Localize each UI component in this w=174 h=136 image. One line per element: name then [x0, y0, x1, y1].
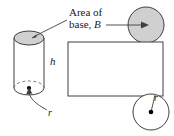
cylinder-group: [14, 20, 67, 110]
radius-label-cylinder: r: [48, 108, 52, 119]
bottom-circle-center-dot: [149, 110, 154, 115]
cylinder-top-ellipse-shaded: [14, 31, 44, 45]
callout-label-area-symbol: B: [94, 18, 101, 30]
top-base-circle-group: [106, 7, 164, 43]
height-label-h: h: [50, 56, 56, 68]
cylinder-net-figure: Area of base, B h r r: [0, 0, 174, 136]
callout-label-line-2: base, B: [69, 19, 101, 31]
lateral-surface-rectangle: [68, 42, 163, 96]
radius-label-circle: r: [154, 93, 158, 104]
callout-label-base-word: base,: [69, 18, 94, 30]
callout-leader-line-to-cylinder: [41, 20, 67, 33]
callout-label-line-1: Area of: [69, 7, 102, 19]
bottom-base-circle-group: [133, 94, 169, 130]
